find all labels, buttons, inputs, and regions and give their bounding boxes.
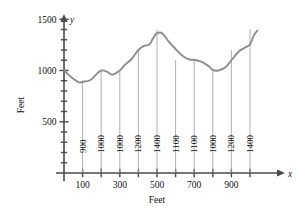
elevation-profile-figure: 50010001500 100300500700900 900100010001… xyxy=(0,0,300,218)
x-tick-label: 700 xyxy=(187,180,202,190)
y-tick-label: 1500 xyxy=(38,15,57,25)
x-tick-label: 100 xyxy=(75,180,90,190)
elevation-curve xyxy=(64,31,257,83)
measurement-label: 1200 xyxy=(227,135,237,154)
measurement-label: 1200 xyxy=(134,135,144,154)
y-tick-label: 500 xyxy=(42,117,57,127)
elevation-chart-svg: 50010001500 100300500700900 900100010001… xyxy=(0,0,300,218)
y-tick-label: 1000 xyxy=(38,66,57,76)
y-axis-variable-label: y xyxy=(69,15,75,25)
x-axis-variable-label: x xyxy=(287,169,293,179)
y-axis-arrowhead xyxy=(60,14,67,22)
measurement-label: 1100 xyxy=(171,135,181,153)
measurement-label: 1000 xyxy=(96,135,106,154)
measurement-label: 900 xyxy=(78,139,88,153)
y-tick-label-group: 50010001500 xyxy=(38,15,57,128)
x-tick-label: 900 xyxy=(224,180,239,190)
y-axis-title: Feet xyxy=(16,96,26,113)
x-tick-label: 500 xyxy=(150,180,165,190)
measurement-label-group: 900100010001200140011001100100012001400 xyxy=(78,135,255,154)
x-axis-arrowhead xyxy=(277,169,285,176)
measurement-line-group xyxy=(83,30,250,174)
measurement-label: 1100 xyxy=(189,135,199,153)
x-tick-label-group: 100300500700900 xyxy=(75,180,238,190)
x-tick-label: 300 xyxy=(113,180,128,190)
measurement-label: 1000 xyxy=(208,135,218,154)
measurement-label: 1400 xyxy=(152,135,162,154)
measurement-label: 1000 xyxy=(115,135,125,154)
measurement-label: 1400 xyxy=(245,135,255,154)
x-axis-title: Feet xyxy=(149,195,166,205)
